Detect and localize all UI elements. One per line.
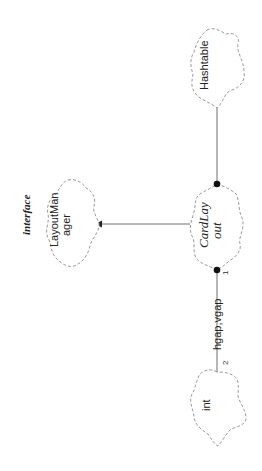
layoutmanager-label-line2: ager [60, 214, 72, 236]
interface-stereotype-label: interface [20, 195, 32, 235]
hashtable-label: Hashtable [198, 40, 210, 90]
int-label: int [200, 399, 212, 411]
cardlayout-label-line2: out [209, 222, 224, 239]
target-cardinality: 2 [221, 360, 230, 365]
aggregation-dot-icon [214, 181, 221, 188]
source-cardinality: 1 [221, 270, 230, 275]
association-label: hgap,vgap [211, 299, 223, 350]
layoutmanager-label-line1: LayoutMan [48, 193, 60, 247]
aggregation-dot-icon [214, 267, 221, 274]
int-class-cloud [191, 370, 246, 446]
class-diagram: Hashtable CardLay out LayoutMan ager int… [0, 0, 262, 471]
